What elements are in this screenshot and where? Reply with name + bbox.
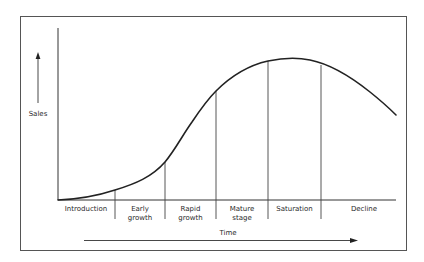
stage-label-saturation: Saturation [276,205,313,213]
product-life-cycle-diagram: Sales Introduction Early growth Rapid gr… [0,0,424,262]
sales-arrow [36,52,41,103]
stage-label-mature-stage-line2: stage [232,214,251,222]
stage-label-introduction: Introduction [65,205,107,213]
y-axis-label: Sales [29,110,48,118]
stage-label-decline: Decline [351,205,377,213]
stage-label-early-growth-line2: growth [128,214,152,222]
stage-label-rapid-growth-line1: Rapid [181,205,201,213]
sales-curve [58,58,396,200]
stage-labels: Introduction Early growth Rapid growth M… [65,205,377,222]
arrow-up-icon [36,52,41,59]
x-axis-label: Time [218,229,236,237]
stage-dividers [115,61,321,219]
arrow-right-icon [350,238,358,243]
time-arrow [84,238,358,243]
stage-label-early-growth-line1: Early [131,205,149,213]
stage-label-mature-stage-line1: Mature [230,205,255,213]
stage-label-rapid-growth-line2: growth [178,214,202,222]
diagram-frame [21,17,407,251]
